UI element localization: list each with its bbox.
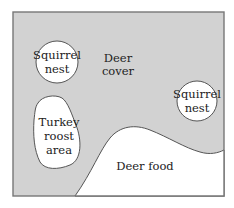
squirrel-nest-right-label-2: nest: [185, 101, 210, 115]
turkey-roost-label-1: Turkey: [39, 115, 80, 129]
squirrel-nest-left-label-1: Squirrel: [33, 48, 81, 62]
deer-food-label: Deer food: [116, 159, 174, 173]
habitat-diagram: Squirrel nest Deer cover Squirrel nest T…: [0, 0, 234, 208]
turkey-roost-label-2: roost: [44, 129, 74, 143]
deer-cover-label-1: Deer: [104, 51, 133, 65]
squirrel-nest-left-label-2: nest: [45, 62, 70, 76]
squirrel-nest-right-label-1: Squirrel: [173, 87, 221, 101]
turkey-roost-label-3: area: [46, 143, 72, 157]
deer-cover-label-2: cover: [102, 64, 135, 78]
